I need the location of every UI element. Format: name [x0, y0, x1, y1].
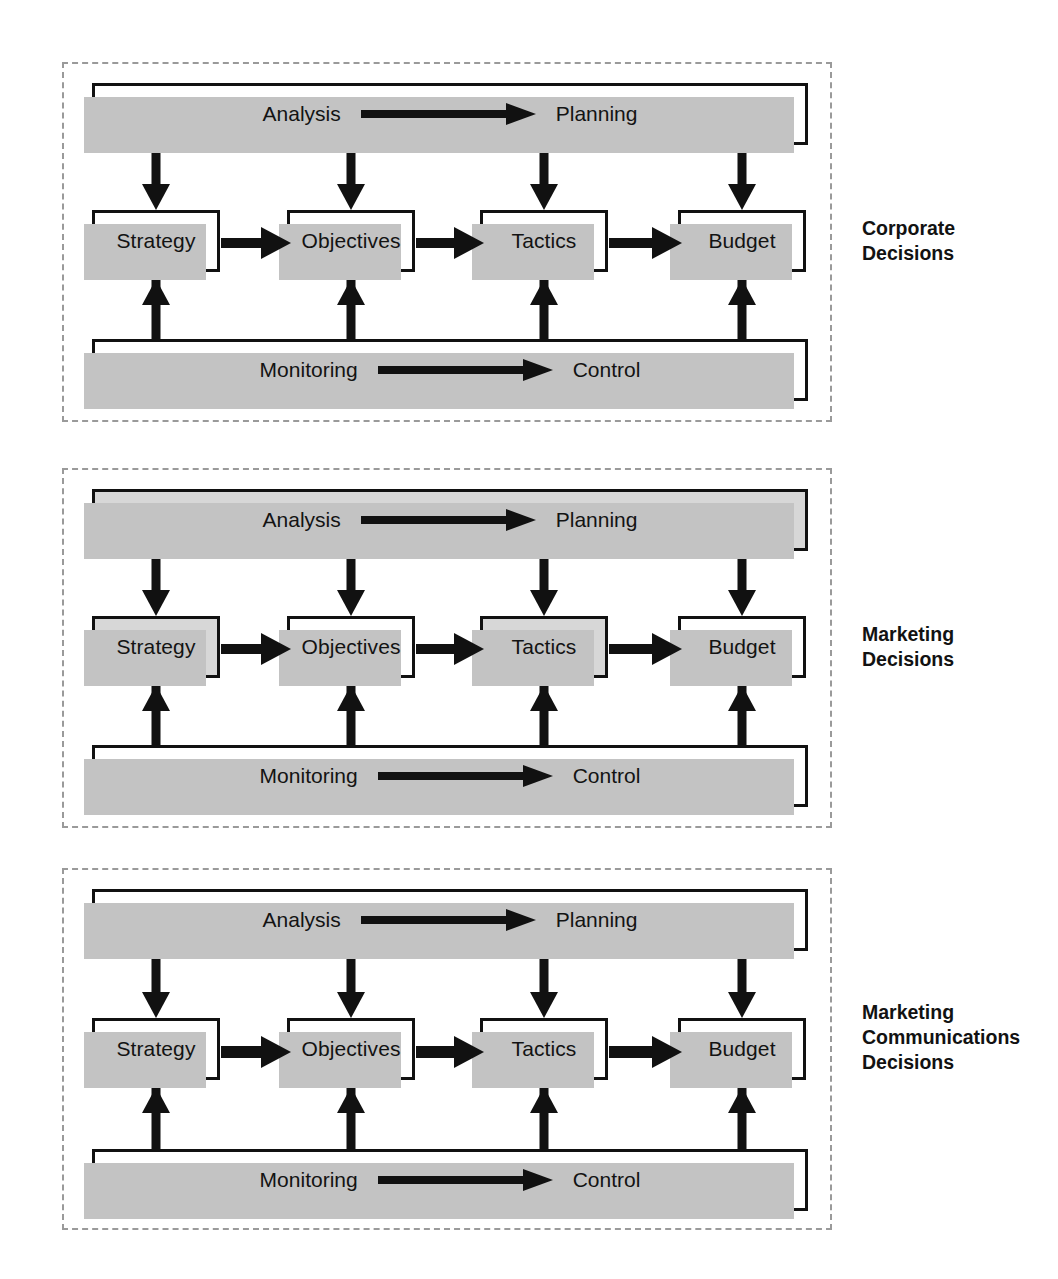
arrow-up-to-budget [728, 685, 756, 750]
analysis-label: Analysis [263, 102, 341, 126]
node-label: Strategy [116, 1037, 195, 1061]
panel-marketing-communications: Analysis Planning Str [62, 868, 832, 1230]
arrow-up-to-objectives [337, 1087, 365, 1154]
analysis-planning-bar: Analysis Planning [92, 889, 808, 951]
analysis-label: Analysis [263, 508, 341, 532]
node-label: Strategy [116, 229, 195, 253]
arrow-up-to-objectives [337, 279, 365, 344]
analysis-planning-bar: Analysis Planning [92, 83, 808, 145]
analysis-to-planning-arrow-icon [361, 909, 536, 931]
node-tactics: Tactics [480, 1018, 608, 1080]
node-label: Budget [708, 635, 775, 659]
monitoring-label: Monitoring [260, 358, 358, 382]
node-budget: Budget [678, 210, 806, 272]
arrow-up-to-tactics [530, 1087, 558, 1154]
arrow-up-to-strategy [142, 685, 170, 750]
arrow-down-to-objectives [337, 145, 365, 210]
planning-label: Planning [556, 908, 638, 932]
monitoring-label: Monitoring [260, 764, 358, 788]
node-tactics: Tactics [480, 616, 608, 678]
control-label: Control [573, 1168, 641, 1192]
node-label: Objectives [301, 1037, 400, 1061]
panel-corporate: Analysis Planning [62, 62, 832, 422]
node-objectives: Objectives [287, 616, 415, 678]
node-label: Tactics [512, 635, 577, 659]
arrow-tactics-to-budget [609, 1035, 682, 1069]
node-label: Objectives [301, 229, 400, 253]
decision-hierarchy-diagram: Analysis Planning [0, 0, 1058, 1279]
arrow-down-to-objectives [337, 951, 365, 1018]
control-label: Control [573, 764, 641, 788]
node-strategy: Strategy [92, 616, 220, 678]
arrow-down-to-strategy [142, 951, 170, 1018]
caption-marketing-decisions: Marketing Decisions [862, 622, 954, 672]
node-tactics: Tactics [480, 210, 608, 272]
panel-marketing: Analysis Planning Str [62, 468, 832, 828]
analysis-to-planning-arrow-icon [361, 509, 536, 531]
arrow-up-to-tactics [530, 685, 558, 750]
monitoring-control-bar: Monitoring Control [92, 339, 808, 401]
node-label: Tactics [512, 229, 577, 253]
monitoring-to-control-arrow-icon [378, 359, 553, 381]
arrow-down-to-tactics [530, 951, 558, 1018]
node-label: Objectives [301, 635, 400, 659]
arrow-down-to-budget [728, 951, 756, 1018]
planning-label: Planning [556, 102, 638, 126]
arrow-up-to-strategy [142, 279, 170, 344]
arrow-up-to-budget [728, 279, 756, 344]
node-budget: Budget [678, 616, 806, 678]
arrow-down-to-objectives [337, 551, 365, 616]
monitoring-label: Monitoring [260, 1168, 358, 1192]
monitoring-to-control-arrow-icon [378, 1169, 553, 1191]
monitoring-control-bar: Monitoring Control [92, 1149, 808, 1211]
analysis-planning-bar: Analysis Planning [92, 489, 808, 551]
arrow-strategy-to-objectives [221, 227, 291, 259]
arrow-tactics-to-budget [609, 227, 682, 259]
node-strategy: Strategy [92, 210, 220, 272]
node-objectives: Objectives [287, 210, 415, 272]
arrow-strategy-to-objectives [221, 633, 291, 665]
arrow-down-to-strategy [142, 145, 170, 210]
arrow-down-to-tactics [530, 145, 558, 210]
planning-label: Planning [556, 508, 638, 532]
arrow-objectives-to-tactics [416, 1035, 484, 1069]
arrow-up-to-objectives [337, 685, 365, 750]
arrow-down-to-budget [728, 551, 756, 616]
node-label: Budget [708, 229, 775, 253]
caption-marketing-communications-decisions: Marketing Communications Decisions [862, 1000, 1020, 1075]
arrow-objectives-to-tactics [416, 633, 484, 665]
node-label: Tactics [512, 1037, 577, 1061]
node-budget: Budget [678, 1018, 806, 1080]
arrow-objectives-to-tactics [416, 227, 484, 259]
control-label: Control [573, 358, 641, 382]
arrow-down-to-strategy [142, 551, 170, 616]
node-label: Strategy [116, 635, 195, 659]
arrow-tactics-to-budget [609, 633, 682, 665]
caption-corporate-decisions: Corporate Decisions [862, 216, 955, 266]
arrow-down-to-tactics [530, 551, 558, 616]
arrow-strategy-to-objectives [221, 1035, 291, 1069]
arrow-up-to-strategy [142, 1087, 170, 1154]
arrow-up-to-budget [728, 1087, 756, 1154]
node-label: Budget [708, 1037, 775, 1061]
arrow-down-to-budget [728, 145, 756, 210]
analysis-label: Analysis [263, 908, 341, 932]
arrow-up-to-tactics [530, 279, 558, 344]
monitoring-control-bar: Monitoring Control [92, 745, 808, 807]
analysis-to-planning-arrow-icon [361, 103, 536, 125]
node-objectives: Objectives [287, 1018, 415, 1080]
node-strategy: Strategy [92, 1018, 220, 1080]
monitoring-to-control-arrow-icon [378, 765, 553, 787]
